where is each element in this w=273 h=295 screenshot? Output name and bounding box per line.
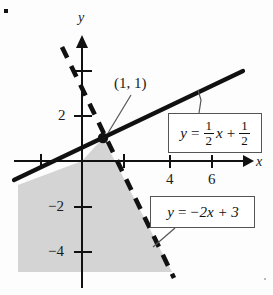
y-tick-label-minus-2: −2 — [48, 199, 64, 214]
graph-figure: y x 2 −2 −4 4 6 (1, 1) y = 1 2 x + 1 2 y… — [0, 0, 273, 295]
x-tick-label-4: 4 — [166, 172, 174, 187]
x-tick-label-6: 6 — [208, 172, 216, 187]
intersection-point-marker — [98, 133, 108, 143]
eq1-variable-x: x — [215, 125, 224, 142]
equation-box-dashed-line: y = −2x + 3 — [150, 196, 255, 228]
y-axis-label: y — [78, 11, 84, 25]
point-label: (1, 1) — [114, 76, 147, 91]
x-axis-label: x — [256, 155, 262, 169]
eq2-rhs-text: −2x + 3 — [189, 204, 238, 220]
eq1-fraction-one-half-slope: 1 2 — [204, 119, 215, 147]
eq1-fraction-one-half-intercept: 1 2 — [239, 119, 250, 147]
y-tick-label-2: 2 — [58, 108, 66, 123]
eq1-frac1-numerator: 1 — [204, 119, 215, 132]
equation-solid-line: y = 1 2 x + 1 2 — [179, 119, 250, 147]
eq1-frac2-denominator: 2 — [239, 133, 250, 147]
eq2-lhs: y — [166, 204, 175, 221]
eq1-frac2-numerator: 1 — [239, 119, 250, 132]
eq2-rhs: −2x + 3 — [189, 204, 238, 221]
eq1-plus: + — [224, 125, 238, 142]
eq2-equals: = — [175, 204, 189, 221]
eq1-lhs: y — [179, 125, 188, 142]
eq1-equals: = — [188, 125, 202, 142]
eq1-frac1-denominator: 2 — [204, 133, 215, 147]
equation-box-solid-line: y = 1 2 x + 1 2 — [168, 113, 262, 153]
equation-dashed-line: y = −2x + 3 — [166, 204, 239, 221]
y-tick-label-minus-4: −4 — [48, 244, 64, 259]
